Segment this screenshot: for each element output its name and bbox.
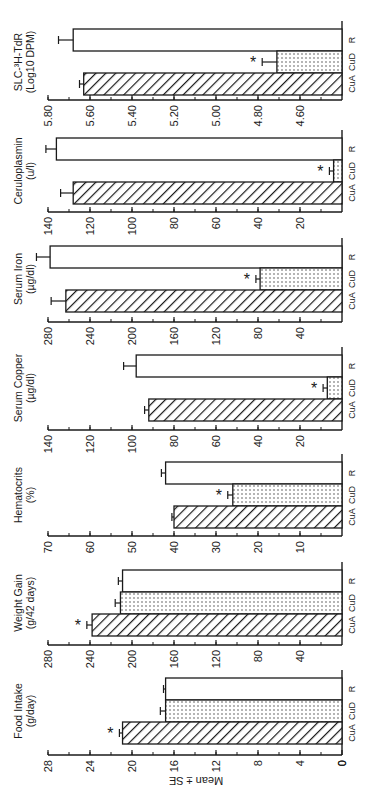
- tick-label: 280: [42, 327, 54, 345]
- tick-label: 200: [126, 327, 138, 345]
- tick-label: 80: [252, 650, 264, 662]
- tick-label: 40: [168, 541, 180, 553]
- significance-asterisk: *: [250, 54, 256, 71]
- category-label: CuA: [347, 292, 357, 310]
- panel-title: Hematocrits: [12, 467, 24, 523]
- bar-r: [166, 462, 342, 484]
- panel-title: Serum Iron: [12, 253, 24, 305]
- panel-title: Food Intake: [12, 683, 24, 739]
- tick-label: 120: [84, 435, 96, 453]
- category-label: R: [347, 145, 357, 152]
- tick-label: 120: [84, 217, 96, 235]
- tick-label: 80: [168, 435, 180, 447]
- tick-label: 4.80: [252, 105, 264, 126]
- bar-cua: [123, 722, 342, 744]
- tick-label: 80: [252, 327, 264, 339]
- tick-label: 10: [294, 541, 306, 553]
- tick-label: 80: [168, 217, 180, 229]
- tick-label: 120: [210, 327, 222, 345]
- tick-label: 200: [126, 650, 138, 668]
- category-label: CuA: [347, 724, 357, 742]
- tick-label: 50: [126, 541, 138, 553]
- category-label: CuA: [347, 616, 357, 634]
- tick-label: 5.80: [42, 105, 54, 126]
- tick-label: 12: [210, 760, 222, 772]
- panel-unit: (µg/dl): [24, 264, 36, 294]
- tick-label: 5.20: [168, 105, 180, 126]
- panel-title: Ceruloplasmin: [12, 137, 24, 204]
- bar-cua: [174, 506, 342, 528]
- tick-label: 160: [168, 327, 180, 345]
- category-label: CuD: [347, 53, 357, 72]
- tick-label: 120: [210, 650, 222, 668]
- panel-serum-copper: R*CuDCuA20406080100120140Serum Copper(µg…: [12, 347, 357, 453]
- panel-unit: (%): [24, 487, 36, 503]
- bar-cud: [327, 377, 342, 399]
- tick-label: 5.00: [210, 105, 222, 126]
- bar-cud: [120, 592, 342, 614]
- tick-label: 40: [252, 435, 264, 447]
- panel-serum-iron: R*CuDCuA4080120160200240280Serum Iron(µg…: [12, 238, 357, 345]
- bar-cua: [84, 73, 342, 95]
- tick-label: 70: [42, 541, 54, 553]
- category-label: CuD: [347, 594, 357, 613]
- tick-label: 60: [210, 435, 222, 447]
- category-label: R: [347, 577, 357, 584]
- tick-label: 24: [84, 760, 96, 772]
- tick-label: 100: [126, 435, 138, 453]
- bar-cud: [260, 268, 342, 290]
- bar-r: [136, 355, 342, 377]
- tick-label: 20: [252, 541, 264, 553]
- category-label: R: [347, 685, 357, 692]
- tick-label: 30: [210, 541, 222, 553]
- panel-weight-gain: RCuD*CuA4080120160200240280Weight Gain(g…: [12, 562, 357, 668]
- tick-label: 140: [42, 217, 54, 235]
- significance-asterisk: *: [244, 271, 250, 288]
- panel-title: Serum Copper: [12, 353, 24, 422]
- tick-label: 4: [294, 760, 306, 766]
- bar-cua: [92, 614, 342, 636]
- panel-food-intake: RCuD*CuA04812162024280Food Intake(g/day): [12, 670, 357, 772]
- bar-cud: [233, 484, 342, 506]
- category-label: CuD: [347, 486, 357, 505]
- category-label: CuA: [347, 75, 357, 93]
- significance-asterisk: *: [107, 725, 113, 742]
- bar-chart-panels: R*CuDCuA4.604.805.005.205.405.605.80SLC-…: [0, 0, 370, 788]
- panel-ceruloplasmin: R*CuDCuA20406080100120140Ceruloplasmin(u…: [12, 130, 357, 235]
- bar-cud: [334, 160, 342, 182]
- tick-label: 140: [42, 435, 54, 453]
- tick-label: 60: [84, 541, 96, 553]
- tick-label: 4.60: [294, 105, 306, 126]
- category-label: CuD: [347, 270, 357, 289]
- bar-cud: [166, 700, 342, 722]
- tick-label: 20: [294, 435, 306, 447]
- panel-title: Weight Gain: [12, 574, 24, 632]
- category-label: CuA: [347, 184, 357, 202]
- category-label: CuD: [347, 702, 357, 721]
- tick-label: 8: [252, 760, 264, 766]
- panel-unit: (g/day): [24, 695, 36, 728]
- tick-label: 100: [126, 217, 138, 235]
- tick-label: 20: [126, 760, 138, 772]
- category-label: R: [347, 469, 357, 476]
- significance-asterisk: *: [75, 617, 81, 634]
- tick-label: 60: [210, 217, 222, 229]
- panel-unit: (Log10 DPM): [24, 31, 36, 93]
- tick-label: 5.40: [126, 105, 138, 126]
- tick-label: 40: [294, 650, 306, 662]
- category-label: CuA: [347, 401, 357, 419]
- panel-hematocrits: R*CuDCuA10203040506070Hematocrits(%): [12, 454, 357, 553]
- bar-r: [73, 29, 342, 51]
- category-label: CuD: [347, 379, 357, 398]
- panel-slc-h-tdr: R*CuDCuA4.604.805.005.205.405.605.80SLC-…: [12, 21, 357, 126]
- tick-label: 40: [252, 217, 264, 229]
- y-axis-label: Mean ± SE: [169, 775, 223, 787]
- significance-asterisk: *: [317, 163, 323, 180]
- category-label: R: [347, 36, 357, 43]
- tick-label-zero: 0: [336, 760, 348, 766]
- tick-label: 160: [168, 650, 180, 668]
- panel-unit: (g/42 days): [24, 577, 36, 630]
- figure: R*CuDCuA4.604.805.005.205.405.605.80SLC-…: [0, 0, 370, 788]
- tick-label: 40: [294, 327, 306, 339]
- bar-cua: [66, 290, 342, 312]
